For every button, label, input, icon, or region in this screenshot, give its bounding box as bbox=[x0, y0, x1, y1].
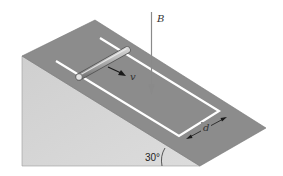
rod-end-cap bbox=[76, 74, 83, 81]
rail-spacing-label: d bbox=[203, 122, 209, 133]
incline-rod-diagram: v B d 30° bbox=[0, 0, 283, 176]
magnetic-field-label: B bbox=[156, 13, 164, 24]
velocity-label: v bbox=[130, 71, 136, 82]
angle-label: 30° bbox=[145, 152, 160, 163]
